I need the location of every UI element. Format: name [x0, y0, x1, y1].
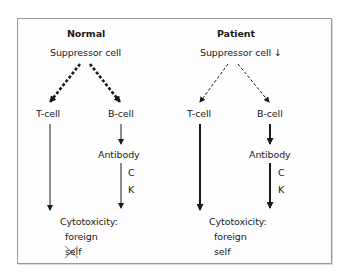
arrows-layer	[0, 0, 344, 277]
normal-suppressor-to-bcell-arrow	[90, 64, 120, 102]
normal-suppressor-to-tcell-arrow	[50, 64, 80, 102]
patient-k-label: K	[278, 184, 284, 195]
normal-foreign-label: foreign	[65, 231, 98, 242]
patient-c-label: C	[278, 167, 285, 178]
normal-bcell-label: B-cell	[108, 108, 134, 119]
patient-tcell-label: T-cell	[187, 108, 211, 119]
patient-self-label: self	[214, 246, 230, 257]
patient-cytotoxicity-label: Cytotoxicity:	[209, 216, 267, 227]
normal-k-label: K	[128, 184, 134, 195]
normal-title: Normal	[67, 28, 105, 39]
normal-c-label: C	[128, 167, 135, 178]
patient-foreign-label: foreign	[214, 231, 247, 242]
patient-antibody-label: Antibody	[249, 149, 291, 160]
normal-tcell-label: T-cell	[36, 108, 60, 119]
patient-suppressor-to-bcell-arrow	[238, 64, 269, 102]
patient-suppressor-cell-label: Suppressor cell ↓	[200, 47, 282, 58]
normal-self-label: self	[65, 246, 81, 257]
normal-cytotoxicity-label: Cytotoxicity:	[60, 216, 118, 227]
patient-bcell-label: B-cell	[257, 108, 283, 119]
normal-suppressor-cell-label: Suppressor cell	[50, 47, 121, 58]
normal-antibody-label: Antibody	[98, 149, 140, 160]
patient-title: Patient	[217, 28, 255, 39]
patient-suppressor-to-tcell-arrow	[200, 64, 228, 102]
